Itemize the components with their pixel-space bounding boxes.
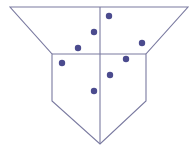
- data-point: [91, 88, 97, 94]
- data-point: [139, 40, 145, 46]
- data-point: [123, 56, 129, 62]
- shield-outline: [10, 7, 188, 144]
- shield-diagram: [0, 0, 195, 154]
- data-point: [91, 29, 97, 35]
- data-point: [75, 45, 81, 51]
- data-point: [107, 72, 113, 78]
- data-point: [59, 60, 65, 66]
- data-point: [106, 13, 112, 19]
